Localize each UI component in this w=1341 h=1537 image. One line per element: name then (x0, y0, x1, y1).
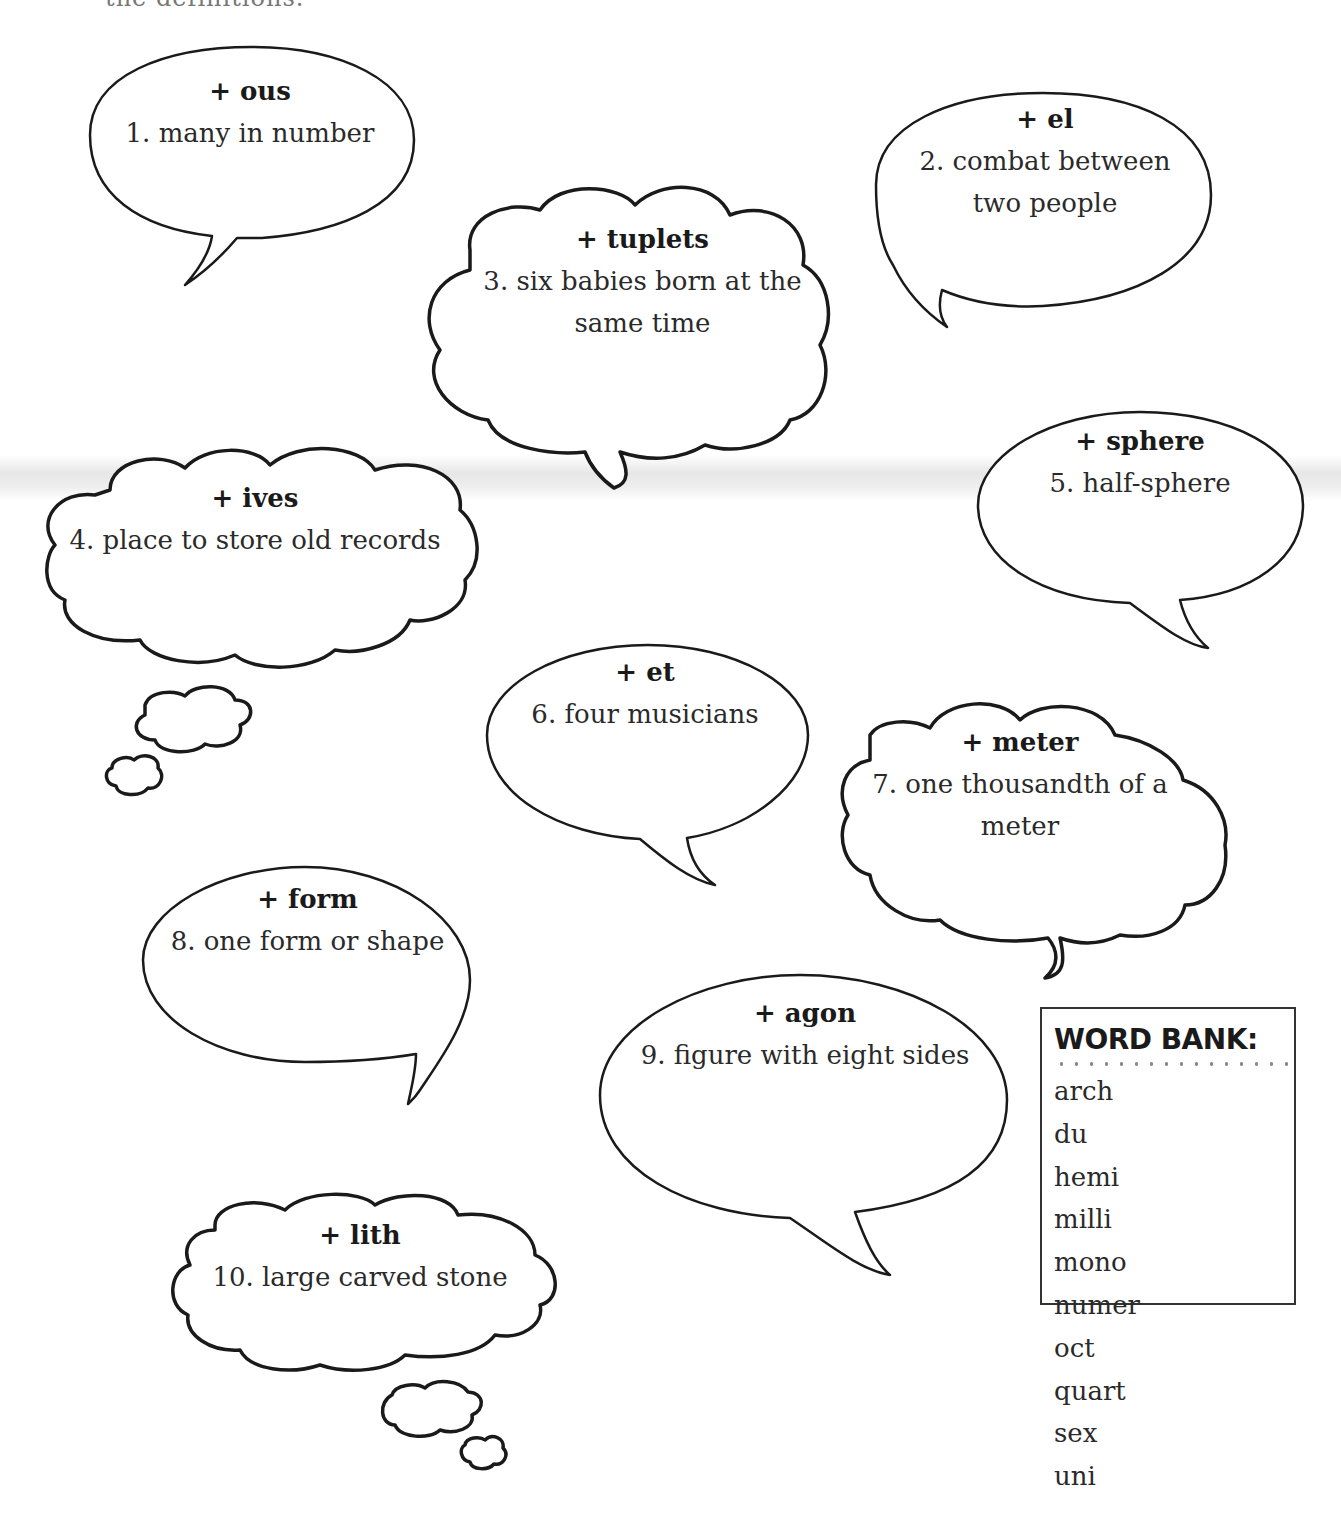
clue-text: 2. combat between (895, 140, 1195, 182)
word-bank-item: quart (1054, 1370, 1294, 1413)
clue-text: 10. large carved stone (200, 1256, 520, 1298)
suffix-label: + el (895, 98, 1195, 140)
bubble-4: + ives 4. place to store old records (55, 477, 455, 561)
word-bank-list: arch du hemi milli mono numer oct quart … (1054, 1070, 1294, 1498)
bubble-1: + ous 1. many in number (105, 70, 395, 154)
bubble-5: + sphere 5. half-sphere (1000, 420, 1280, 504)
clue-text: 6. four musicians (500, 693, 790, 735)
clue-text: 3. six babies born at the (465, 260, 820, 302)
clue-text: 9. figure with eight sides (620, 1034, 990, 1076)
suffix-label: + ous (105, 70, 395, 112)
word-bank-box: WORD BANK: arch du hemi milli mono numer… (1040, 1007, 1296, 1305)
clue-text: 5. half-sphere (1000, 462, 1280, 504)
suffix-label: + lith (200, 1214, 520, 1256)
clue-text: 4. place to store old records (55, 519, 455, 561)
word-bank-item: du (1054, 1113, 1294, 1156)
clue-text: 8. one form or shape (160, 920, 455, 962)
word-bank-item: hemi (1054, 1156, 1294, 1199)
word-bank-item: oct (1054, 1327, 1294, 1370)
bubble-9: + agon 9. figure with eight sides (620, 992, 990, 1076)
clue-text: 1. many in number (105, 112, 395, 154)
clue-text: 7. one thousandth of a (855, 763, 1185, 805)
word-bank-item: uni (1054, 1455, 1294, 1498)
suffix-label: + meter (855, 721, 1185, 763)
suffix-label: + ives (55, 477, 455, 519)
bubble-2: + el 2. combat between two people (895, 98, 1195, 224)
word-bank-item: arch (1054, 1070, 1294, 1113)
clue-text: two people (895, 182, 1195, 224)
bubble-3: + tuplets 3. six babies born at the same… (465, 218, 820, 344)
suffix-label: + agon (620, 992, 990, 1034)
bubble-6: + et 6. four musicians (500, 651, 790, 735)
dotted-divider (1054, 1062, 1294, 1066)
bubble-7: + meter 7. one thousandth of a meter (855, 721, 1185, 847)
suffix-label: + form (160, 878, 455, 920)
clue-text: meter (855, 805, 1185, 847)
word-bank-item: numer (1054, 1284, 1294, 1327)
word-bank-item: sex (1054, 1412, 1294, 1455)
bubble-10: + lith 10. large carved stone (200, 1214, 520, 1298)
word-bank-item: mono (1054, 1241, 1294, 1284)
clue-text: same time (465, 302, 820, 344)
bubble-8: + form 8. one form or shape (160, 878, 455, 962)
suffix-label: + sphere (1000, 420, 1280, 462)
word-bank-title: WORD BANK: (1054, 1023, 1294, 1056)
suffix-label: + tuplets (465, 218, 820, 260)
suffix-label: + et (500, 651, 790, 693)
word-bank-item: milli (1054, 1198, 1294, 1241)
